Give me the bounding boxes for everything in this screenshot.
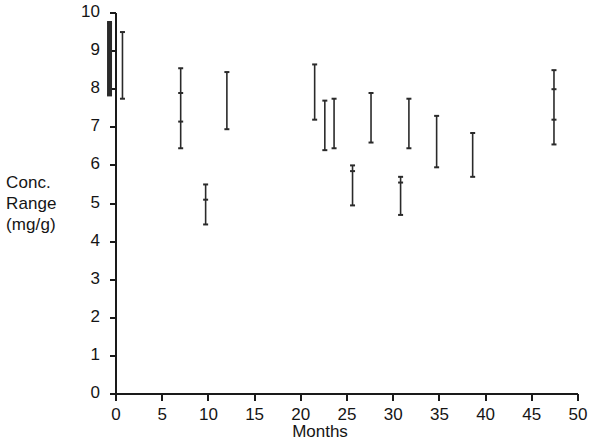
x-tick-label: 5 xyxy=(144,405,180,425)
x-axis-label: Months xyxy=(0,422,594,442)
y-tick-label: 3 xyxy=(72,269,100,289)
range-bar xyxy=(434,116,439,167)
x-tick-label: 10 xyxy=(190,405,226,425)
y-tick-label: 5 xyxy=(72,193,100,213)
x-tick-label: 40 xyxy=(468,405,504,425)
range-bar xyxy=(406,99,411,149)
x-tick-label: 25 xyxy=(329,405,365,425)
y-tick-label: 1 xyxy=(72,345,100,365)
x-tick-label: 35 xyxy=(421,405,457,425)
y-axis-label-line-1: Conc. xyxy=(6,172,80,193)
range-bar xyxy=(551,70,556,144)
range-bar xyxy=(470,133,475,177)
y-tick-label: 2 xyxy=(72,307,100,327)
x-tick-label: 45 xyxy=(514,405,550,425)
range-bar xyxy=(398,177,403,215)
range-bar xyxy=(350,165,355,205)
y-tick-label: 7 xyxy=(72,116,100,136)
x-tick-label: 15 xyxy=(237,405,273,425)
y-tick-label: 8 xyxy=(72,78,100,98)
range-bar xyxy=(322,101,327,151)
chart-plot-area xyxy=(0,0,594,446)
x-tick-label: 50 xyxy=(560,405,594,425)
range-bar xyxy=(203,184,208,224)
y-axis-label-line-3: (mg/g) xyxy=(6,214,80,235)
y-tick-label: 10 xyxy=(72,2,100,22)
x-tick-label: 30 xyxy=(375,405,411,425)
range-bar xyxy=(224,72,229,129)
range-bar xyxy=(312,64,317,119)
x-tick-label: 0 xyxy=(98,405,134,425)
range-bar xyxy=(369,93,374,143)
y-axis-label: Conc. Range (mg/g) xyxy=(6,172,80,235)
range-bar xyxy=(178,68,183,148)
y-tick-label: 6 xyxy=(72,154,100,174)
x-tick-label: 20 xyxy=(283,405,319,425)
y-tick-label: 4 xyxy=(72,231,100,251)
y-tick-label: 0 xyxy=(72,383,100,403)
range-bar xyxy=(332,99,337,149)
y-tick-label: 9 xyxy=(72,40,100,60)
chart-figure: Conc. Range (mg/g) Months 01234567891005… xyxy=(0,0,594,446)
y-axis-label-line-2: Range xyxy=(6,193,80,214)
range-bar xyxy=(107,23,112,95)
range-bar xyxy=(120,32,125,99)
